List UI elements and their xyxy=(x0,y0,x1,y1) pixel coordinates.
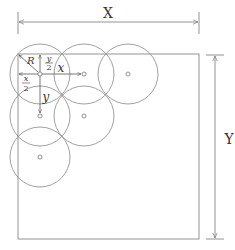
spacing-x-label: x xyxy=(58,61,65,75)
domain-rectangle xyxy=(18,54,199,239)
half-y-numerator: y xyxy=(46,54,52,63)
half-x-denominator: 2 xyxy=(23,84,28,93)
width-dimension: X xyxy=(18,5,199,34)
center-r2c2 xyxy=(82,114,86,118)
half-x-numerator: x xyxy=(24,74,29,83)
center-r1c2 xyxy=(82,72,86,76)
annotation-labels: R y 2 x x 2 y xyxy=(22,54,65,104)
center-r1c3 xyxy=(126,72,130,76)
height-label: Y xyxy=(223,131,234,147)
spacing-y-label: y xyxy=(42,90,50,104)
height-dimension: Y xyxy=(206,55,234,239)
radius-label: R xyxy=(26,55,35,66)
width-label: X xyxy=(103,5,113,21)
center-r1c1 xyxy=(38,72,42,76)
half-y-denominator: 2 xyxy=(46,63,51,72)
circle-packing-diagram: X Y R y xyxy=(0,0,235,250)
center-r2c1 xyxy=(38,114,42,118)
center-r3c1 xyxy=(38,155,42,159)
